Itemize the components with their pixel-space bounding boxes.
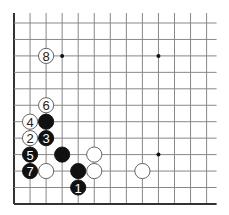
white-stone: 2 (22, 131, 37, 147)
white-stone (87, 163, 102, 178)
move-number: 8 (42, 49, 49, 64)
black-stone (71, 163, 86, 178)
stone-circle (71, 163, 86, 178)
move-number: 6 (42, 98, 49, 113)
star-point-icon (156, 54, 160, 58)
black-stone (39, 114, 54, 129)
black-stone: 3 (39, 131, 54, 147)
black-stone: 5 (22, 147, 37, 163)
white-stone (87, 147, 102, 162)
black-stone: 1 (71, 180, 86, 196)
white-stone: 8 (39, 48, 54, 64)
move-number: 4 (26, 115, 33, 130)
stone-circle (39, 114, 54, 129)
black-stone (55, 147, 70, 162)
white-stone (135, 163, 150, 178)
stone-circle (39, 163, 54, 178)
move-number: 1 (75, 181, 82, 196)
move-number: 3 (42, 131, 49, 146)
star-point-icon (60, 54, 64, 58)
black-stone: 7 (22, 163, 37, 179)
white-stone (39, 163, 54, 178)
move-number: 7 (26, 164, 33, 179)
go-board: 86423571 (0, 0, 229, 215)
white-stone: 6 (39, 98, 54, 114)
move-number: 2 (26, 131, 33, 146)
move-number: 5 (26, 148, 33, 163)
stone-circle (87, 147, 102, 162)
stone-circle (87, 163, 102, 178)
star-point-icon (156, 153, 160, 157)
white-stone: 4 (22, 114, 37, 130)
stone-circle (135, 163, 150, 178)
stone-circle (55, 147, 70, 162)
